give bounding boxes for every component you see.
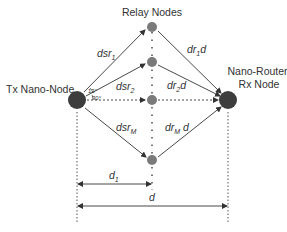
label-d: d [149,191,156,203]
label-dsr1: dsr1 [97,47,116,61]
angle-label-lower: 30° [92,95,102,101]
label-dr2d: dr2d [167,79,187,93]
rx-node-label-line1: Nano-Router/ [227,65,287,77]
relay-node-M [147,155,157,165]
link-tx-relay-1 [84,30,145,92]
relay-node-1 [147,22,157,32]
relay-diagram: Relay Nodes Tx Nano-Node Nano-Router/ Rx… [0,0,287,232]
relay-node-2 [147,57,157,67]
tx-node-label: Tx Nano-Node [6,83,74,95]
rx-node-label-line2: Rx Node [239,78,280,90]
label-dsrM: dsrM [116,121,137,135]
label-d1: d1 [109,169,119,183]
label-dsr2: dsr2 [116,80,135,94]
relay-nodes-title: Relay Nodes [122,6,182,18]
label-dr1d: dr1d [187,43,207,57]
angle-label-upper: 13° [88,88,98,94]
label-drMd: drM d [165,121,190,135]
relay-node-mid [147,95,157,105]
rx-node [219,91,237,109]
